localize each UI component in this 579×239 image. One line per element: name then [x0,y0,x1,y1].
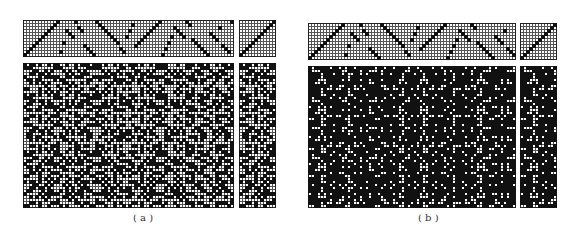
panel-b-threading-grid [308,23,516,60]
panel-a-label: ( a ) [133,212,153,223]
panel-b-drawdown-grid [308,66,516,208]
panel-b-tieup-grid [520,23,557,60]
panel-b-label: ( b ) [418,212,439,223]
panel-a-treadling-grid [239,63,276,208]
panel-b-treadling-grid [520,66,557,208]
panel-a-threading-grid [23,20,234,57]
panel-a-drawdown-grid [23,63,234,208]
panel-a-tieup-grid [239,20,276,57]
